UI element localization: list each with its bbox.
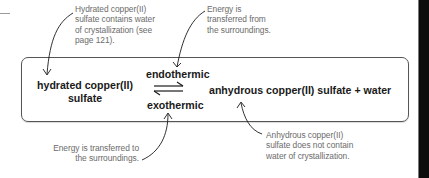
arrows-layer [0, 0, 429, 178]
equilibrium-arrow-icon [154, 82, 183, 95]
anhydrous-callout-arrow-icon [237, 102, 262, 134]
endothermic-callout-arrow-icon [173, 11, 205, 67]
exothermic-callout-arrow-icon [142, 113, 172, 160]
hydrated-callout-arrow-icon [43, 13, 73, 75]
